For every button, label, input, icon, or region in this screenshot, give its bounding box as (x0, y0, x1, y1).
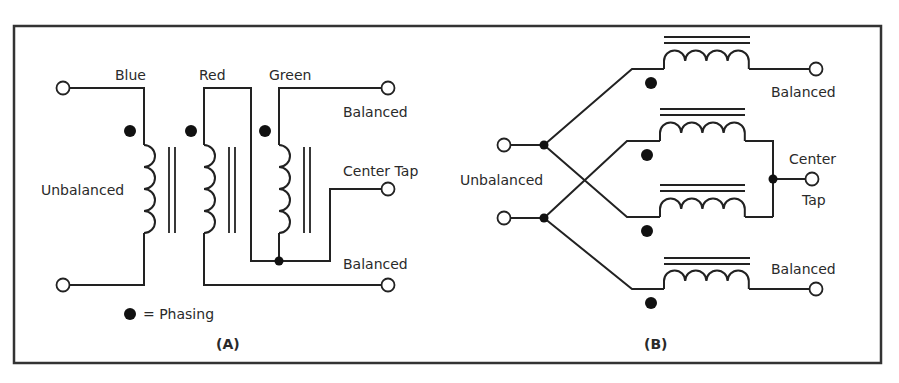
label-center-line1: Center (789, 151, 836, 167)
terminal-center-tap (806, 173, 819, 186)
phasing-dot-icon (645, 77, 657, 89)
phasing-dot-icon (124, 125, 136, 137)
coil-2 (544, 109, 773, 218)
label-unbalanced: Unbalanced (460, 172, 543, 188)
phasing-dot-icon (645, 297, 657, 309)
coil-3 (544, 145, 773, 237)
terminal-balanced-bottom (382, 279, 395, 292)
terminal-balanced-top (382, 82, 395, 95)
terminal-balanced-top (810, 63, 823, 76)
inductor-icon (660, 122, 745, 141)
terminal-unbalanced-top (498, 139, 511, 152)
caption-a: (A) (216, 336, 240, 352)
label-unbalanced: Unbalanced (41, 182, 124, 198)
label-center-line2: Tap (801, 192, 826, 208)
terminal-unbalanced-bottom (57, 279, 70, 292)
label-red: Red (199, 67, 226, 83)
junction-dot-icon (540, 141, 549, 150)
blue-coil-icon (144, 145, 155, 233)
label-balanced-top: Balanced (343, 104, 408, 120)
label-balanced-bottom: Balanced (771, 261, 836, 277)
junction-dot-icon (540, 214, 549, 223)
green-coil-icon (279, 145, 290, 233)
junction-dot-icon (769, 175, 778, 184)
label-green: Green (269, 67, 311, 83)
phasing-dot-icon (641, 149, 653, 161)
transformer-balun-diagram: Blue Red Green Unbalanced Balanced Cente… (0, 0, 899, 383)
label-center-tap: Center Tap (343, 163, 418, 179)
terminal-balanced-bottom (810, 283, 823, 296)
junction-dot-icon (275, 257, 284, 266)
inductor-icon (664, 50, 749, 69)
panel-a: Blue Red Green Unbalanced Balanced Cente… (41, 67, 418, 352)
inductor-icon (660, 198, 745, 217)
label-blue: Blue (115, 67, 146, 83)
terminal-unbalanced-top (57, 82, 70, 95)
red-coil-icon (204, 145, 215, 233)
legend-phasing-dot-icon (124, 308, 136, 320)
terminal-center-tap (382, 183, 395, 196)
phasing-dot-icon (185, 125, 197, 137)
panel-b: Unbalanced Balanced Center Tap Balanced … (460, 37, 836, 352)
label-balanced-top: Balanced (771, 84, 836, 100)
phasing-dot-icon (641, 225, 653, 237)
terminal-unbalanced-bottom (498, 212, 511, 225)
label-balanced-bottom: Balanced (343, 256, 408, 272)
legend-phasing-text: = Phasing (143, 306, 214, 322)
phasing-dot-icon (259, 125, 271, 137)
caption-b: (B) (644, 336, 667, 352)
inductor-icon (664, 270, 749, 289)
